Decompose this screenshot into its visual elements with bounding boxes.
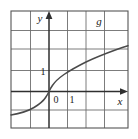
y-tick-label-1: 1 xyxy=(41,66,46,77)
graph-figure: y x g 1 0 1 xyxy=(0,0,138,139)
x-axis-label: x xyxy=(117,95,123,107)
graph-canvas: y x g 1 0 1 xyxy=(0,0,138,139)
x-tick-label-1: 1 xyxy=(70,94,75,105)
curve-label-g: g xyxy=(96,15,102,27)
origin-label-0: 0 xyxy=(54,94,59,105)
y-axis-label: y xyxy=(37,12,43,24)
